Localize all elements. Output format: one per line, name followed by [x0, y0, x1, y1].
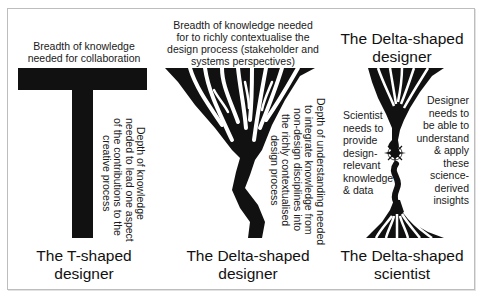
designer-line-4: understand — [416, 132, 469, 145]
delta-scientist-stem-shape-icon — [394, 164, 398, 202]
t-breadth-line-2: needed for collaboration — [14, 52, 154, 64]
t-depth-line-4: creative process — [101, 135, 113, 211]
t-title-line-2: designer — [14, 265, 154, 283]
delta-breadth-line-4: systems perspectives) — [158, 55, 328, 67]
scientist-line-4: design- — [343, 147, 393, 160]
t-depth-line-2: needed to lead one aspect — [124, 118, 136, 242]
delta-depth-line-2: to integrate knowledge from — [303, 105, 315, 235]
delta-breadth-line-1: Breadth of knowledge needed — [158, 19, 328, 31]
designer-line-5: & apply — [416, 144, 469, 157]
t-depth-line-3: of the contributions to the — [112, 118, 124, 236]
scientist-line-2: needs to — [343, 122, 393, 135]
delta-designer-title-line-1: The Delta-shaped — [168, 247, 328, 265]
delta-scientist-title-line-2: scientist — [332, 265, 472, 283]
delta-scientist-top-title: The Delta-shaped designer — [332, 30, 472, 66]
designer-line-8: derived — [416, 182, 469, 195]
delta-designer-title: The Delta-shaped designer — [168, 247, 328, 283]
delta-breadth-line-2: for to richly contextualise the — [158, 31, 328, 43]
delta-depth-line-5: design process — [269, 135, 281, 206]
delta-depth-line-1: Depth of understanding needed — [315, 98, 327, 245]
t-depth-line-1: Depth of knowledge — [135, 127, 147, 220]
designer-line-2: needs to — [416, 107, 469, 120]
t-breadth-label: Breadth of knowledge needed for collabor… — [14, 40, 154, 64]
delta-designer-title-line-2: designer — [168, 265, 328, 283]
scientist-needs-label: Scientist needs to provide design- relev… — [343, 109, 393, 197]
t-title-line-1: The T-shaped — [14, 247, 154, 265]
delta-depth-label: Depth of understanding needed to integra… — [268, 98, 326, 242]
scientist-line-3: provide — [343, 134, 393, 147]
designer-line-9: insights — [416, 194, 469, 207]
t-breadth-line-1: Breadth of knowledge — [14, 40, 154, 52]
delta-breadth-label: Breadth of knowledge needed for to richl… — [158, 19, 328, 67]
t-depth-label: Depth of knowledge needed to lead one as… — [100, 118, 146, 228]
delta-breadth-line-3: design process (stakeholder and — [158, 43, 328, 55]
scientist-line-1: Scientist — [343, 109, 393, 122]
designer-line-3: be able to — [416, 119, 469, 132]
delta-depth-line-4: the richly contextualised — [280, 114, 292, 226]
designer-line-6: these — [416, 157, 469, 170]
delta-scientist-title: The Delta-shaped scientist — [332, 247, 472, 283]
designer-line-1: Designer — [416, 94, 469, 107]
scientist-line-5: relevant — [343, 159, 393, 172]
delta-scientist-top-title-line-2: designer — [332, 48, 472, 66]
scientist-line-7: & data — [343, 184, 393, 197]
delta-depth-line-3: non-design disciplines into — [292, 108, 304, 231]
designer-needs-label: Designer needs to be able to understand … — [416, 94, 469, 207]
t-shaped-title: The T-shaped designer — [14, 247, 154, 283]
delta-scientist-top-title-line-1: The Delta-shaped — [332, 30, 472, 48]
scientist-line-6: knowledge — [343, 172, 393, 185]
delta-scientist-title-line-1: The Delta-shaped — [332, 247, 472, 265]
designer-line-7: science- — [416, 169, 469, 182]
